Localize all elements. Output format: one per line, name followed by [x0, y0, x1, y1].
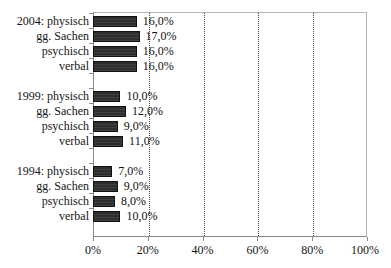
cat-label-1999-physisch: 1999: physisch — [0, 90, 89, 103]
bar-2004-gg-sachen — [93, 31, 140, 42]
cat-label-1994-physisch: 1994: physisch — [0, 165, 89, 178]
x-tick-80 — [312, 237, 313, 241]
bar-chart: 16,0% 17,0% 16,0% 16,0% 10,0% 12,0% 9,0% — [0, 0, 391, 268]
bar-1994-psychisch — [93, 196, 115, 207]
cat-label-2004-verbal: verbal — [0, 60, 89, 73]
x-tick-label-20: 20% — [118, 243, 178, 258]
y-tick — [89, 133, 93, 134]
y-tick — [89, 178, 93, 179]
cat-label-1999-verbal: verbal — [0, 135, 89, 148]
y-tick — [89, 118, 93, 119]
x-tick-40 — [203, 237, 204, 241]
cat-label-2004-physisch: 2004: physisch — [0, 15, 89, 28]
bar-1999-gg-sachen — [93, 106, 126, 117]
y-tick — [89, 13, 93, 14]
x-tick-label-0: 0% — [63, 243, 123, 258]
bar-1999-verbal — [93, 136, 123, 147]
bar-2004-psychisch — [93, 46, 137, 57]
y-tick — [89, 193, 93, 194]
bar-2004-verbal — [93, 61, 137, 72]
y-tick — [89, 28, 93, 29]
bar-1994-verbal — [93, 211, 120, 222]
bar-value-label: 10,0% — [126, 88, 157, 104]
bars-layer: 16,0% 17,0% 16,0% 16,0% 10,0% 12,0% 9,0% — [93, 12, 367, 237]
bar-value-label: 8,0% — [121, 193, 146, 209]
y-tick — [89, 43, 93, 44]
cat-label-1994-verbal: verbal — [0, 210, 89, 223]
y-tick — [89, 208, 93, 209]
y-tick — [89, 88, 93, 89]
category-axis-labels: 2004: physisch gg. Sachen psychisch verb… — [0, 12, 89, 237]
bar-value-label: 10,0% — [126, 208, 157, 224]
x-tick-label-100: 100% — [335, 243, 391, 258]
bar-value-label: 16,0% — [143, 58, 174, 74]
bar-1994-gg-sachen — [93, 181, 118, 192]
bar-value-label: 17,0% — [146, 28, 177, 44]
y-tick — [89, 103, 93, 104]
bar-value-label: 11,0% — [129, 133, 160, 149]
bar-value-label: 16,0% — [143, 43, 174, 59]
cat-label-1994-gg-sachen: gg. Sachen — [0, 180, 89, 193]
bar-value-label: 9,0% — [124, 118, 149, 134]
x-tick-20 — [148, 237, 149, 241]
bar-1999-psychisch — [93, 121, 118, 132]
x-tick-label-60: 60% — [227, 243, 287, 258]
y-tick — [89, 163, 93, 164]
y-tick — [89, 148, 93, 149]
bar-value-label: 7,0% — [118, 163, 143, 179]
cat-label-2004-psychisch: psychisch — [0, 45, 89, 58]
bar-1994-physisch — [93, 166, 112, 177]
bar-2004-physisch — [93, 16, 137, 27]
x-tick-0 — [93, 237, 94, 241]
bar-value-label: 9,0% — [124, 178, 149, 194]
x-tick-100 — [367, 237, 368, 241]
y-tick — [89, 73, 93, 74]
x-tick-60 — [257, 237, 258, 241]
cat-label-1999-psychisch: psychisch — [0, 120, 89, 133]
bar-value-label: 16,0% — [143, 13, 174, 29]
cat-label-2004-gg-sachen: gg. Sachen — [0, 30, 89, 43]
cat-label-1999-gg-sachen: gg. Sachen — [0, 105, 89, 118]
x-tick-label-40: 40% — [173, 243, 233, 258]
cat-label-1994-psychisch: psychisch — [0, 195, 89, 208]
bar-1999-physisch — [93, 91, 120, 102]
y-tick — [89, 58, 93, 59]
x-tick-label-80: 80% — [282, 243, 342, 258]
bar-value-label: 12,0% — [132, 103, 163, 119]
